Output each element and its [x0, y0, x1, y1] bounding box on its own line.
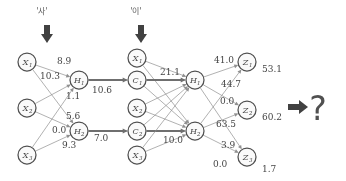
arrowhead-C1-H1b: [181, 77, 186, 82]
weight-00b: 0.0: [220, 96, 235, 106]
weight-00a: 0.0: [52, 125, 67, 135]
arrowhead-H1b-Z3: [238, 145, 242, 149]
node-label-Z1: Z: [242, 58, 249, 67]
node-H2b: H2: [186, 122, 204, 140]
node-label-X1b: X: [132, 54, 139, 63]
node-label-C1: C: [132, 76, 138, 85]
node-X3: X3: [18, 146, 36, 164]
node-C2: C2: [128, 122, 146, 140]
weight-00c: 0.0: [213, 159, 228, 169]
node-label-C2: C: [132, 127, 138, 136]
node-label-Z2: Z: [242, 106, 249, 115]
node-Z1: Z1: [238, 53, 256, 71]
node-label-X2: X: [22, 104, 29, 113]
weight-56: 5.6: [66, 111, 81, 121]
node-label-X3b: X: [132, 151, 139, 160]
arrowhead-H2-C2: [123, 128, 128, 133]
edge-X2b-H2b: [146, 112, 185, 128]
node-subscript-X1b: 1: [139, 58, 143, 64]
node-subscript-Z3: 3: [249, 157, 253, 163]
node-X3b: X3: [128, 146, 146, 164]
arrowhead-C2-H2b: [181, 128, 186, 133]
node-subscript-H1b: 1: [197, 80, 201, 86]
arrowhead-H2b-Z1: [237, 69, 241, 73]
node-C1: C1: [128, 71, 146, 89]
weight-39: 3.9: [221, 140, 236, 150]
down-arrow-icon-2: [135, 25, 147, 43]
result-question-mark: ?: [309, 89, 327, 128]
input-syllable-1: '사': [36, 7, 47, 16]
node-subscript-C1: 1: [139, 80, 143, 86]
weight-106: 10.6: [92, 85, 112, 95]
node-Z2: Z2: [238, 101, 256, 119]
node-Z3: Z3: [238, 148, 256, 166]
weight-89: 8.9: [57, 56, 72, 66]
weight-70: 7.0: [94, 133, 109, 143]
node-label-Z3: Z: [242, 153, 249, 162]
output-value-z1: 53.1: [262, 64, 282, 74]
weight-410: 41.0: [214, 55, 234, 65]
node-H2: H2: [70, 122, 88, 140]
node-X1b: X1: [128, 49, 146, 67]
node-subscript-X1: 1: [29, 62, 33, 68]
node-subscript-C2: 2: [138, 131, 143, 137]
node-subscript-H2b: 2: [196, 131, 201, 137]
weight-211: 21.1: [160, 67, 180, 77]
result-arrow-icon: [288, 100, 308, 114]
weight-447: 44.7: [221, 79, 241, 89]
arrowhead-H1-C1: [123, 77, 128, 82]
node-H1: H1: [70, 71, 88, 89]
node-label-X3: X: [22, 151, 29, 160]
node-subscript-H1: 1: [81, 80, 85, 86]
edge-X2b-H1b: [146, 85, 186, 104]
edge-H1b-Z1: [204, 65, 237, 76]
down-arrow-icon-1: [41, 25, 53, 43]
weight-635: 63.5: [216, 119, 236, 129]
node-subscript-X3b: 3: [139, 155, 143, 161]
output-value-z2: 60.2: [262, 112, 282, 122]
node-X1: X1: [18, 53, 36, 71]
node-subscript-X2: 2: [28, 108, 33, 114]
input-syllable-2: '이': [130, 6, 141, 16]
node-X2b: X2: [128, 99, 146, 117]
node-X2: X2: [18, 99, 36, 117]
node-subscript-X2b: 2: [138, 108, 143, 114]
weight-11: 1.1: [66, 91, 80, 101]
node-H1b: H1: [186, 71, 204, 89]
weight-103: 10.3: [40, 71, 60, 81]
node-subscript-Z1: 1: [249, 62, 253, 68]
weight-93: 9.3: [62, 140, 77, 150]
node-subscript-H2: 2: [80, 131, 85, 137]
neural-network-diagram: X1X2X3H1H2X1C1X2C2X3H1H2Z1Z2Z3 8.910.31.…: [0, 0, 346, 181]
arrowhead-X1-H1: [66, 74, 70, 78]
node-subscript-X3: 3: [29, 155, 33, 161]
output-value-z3: 1.7: [262, 164, 277, 174]
node-subscript-Z2: 2: [248, 110, 253, 116]
arrowhead-H1b-Z1: [234, 65, 238, 69]
node-label-X2b: X: [132, 104, 139, 113]
weight-100: 10.0: [163, 135, 183, 145]
node-label-X1: X: [22, 58, 29, 67]
